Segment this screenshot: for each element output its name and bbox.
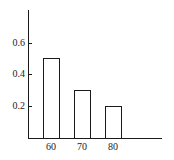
x-tick-label: 60 bbox=[39, 142, 63, 152]
bar-80 bbox=[105, 106, 122, 138]
y-tick-0.6 bbox=[28, 43, 32, 44]
x-tick-label: 70 bbox=[70, 142, 94, 152]
y-tick-0.4 bbox=[28, 74, 32, 75]
bar-70 bbox=[74, 90, 91, 138]
y-tick-label: 0.4 bbox=[3, 69, 25, 79]
x-axis bbox=[28, 138, 162, 139]
y-tick-label: 0.6 bbox=[3, 38, 25, 48]
x-tick-label: 80 bbox=[101, 142, 125, 152]
bar-chart: 0.6 0.4 0.2 60 70 80 bbox=[0, 0, 174, 160]
y-tick-label: 0.2 bbox=[3, 101, 25, 111]
bar-60 bbox=[43, 58, 60, 138]
y-tick-0.2 bbox=[28, 106, 32, 107]
